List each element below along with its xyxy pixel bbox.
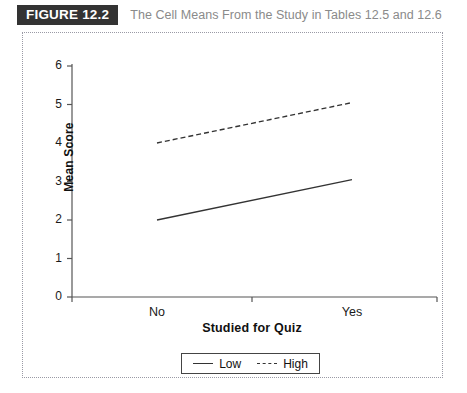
- x-tick-label: No: [117, 305, 197, 319]
- line-chart: 0123456 NoYes Mean Score Studied for Qui…: [0, 0, 467, 393]
- x-axis-title: Studied for Quiz: [152, 321, 352, 335]
- y-tick-label: 3: [22, 174, 62, 188]
- y-axis-title: Mean Score: [62, 112, 76, 202]
- chart-legend: Low High: [181, 353, 320, 374]
- series-group: [157, 103, 352, 220]
- legend-label-high: High: [283, 357, 308, 371]
- series-line-high: [157, 103, 352, 143]
- series-line-low: [157, 180, 352, 220]
- legend-swatch-dashed-icon: [257, 363, 277, 364]
- y-tick-label: 6: [22, 58, 62, 72]
- legend-item-high: High: [257, 357, 308, 371]
- x-tick-label: Yes: [312, 305, 392, 319]
- y-tick-label: 0: [22, 289, 62, 303]
- legend-swatch-solid-icon: [193, 363, 213, 364]
- legend-label-low: Low: [219, 357, 241, 371]
- y-tick-label: 2: [22, 212, 62, 226]
- x-axis-ticks: [72, 297, 437, 302]
- y-tick-label: 4: [22, 135, 62, 149]
- y-tick-label: 1: [22, 251, 62, 265]
- y-tick-label: 5: [22, 97, 62, 111]
- legend-item-low: Low: [193, 357, 241, 371]
